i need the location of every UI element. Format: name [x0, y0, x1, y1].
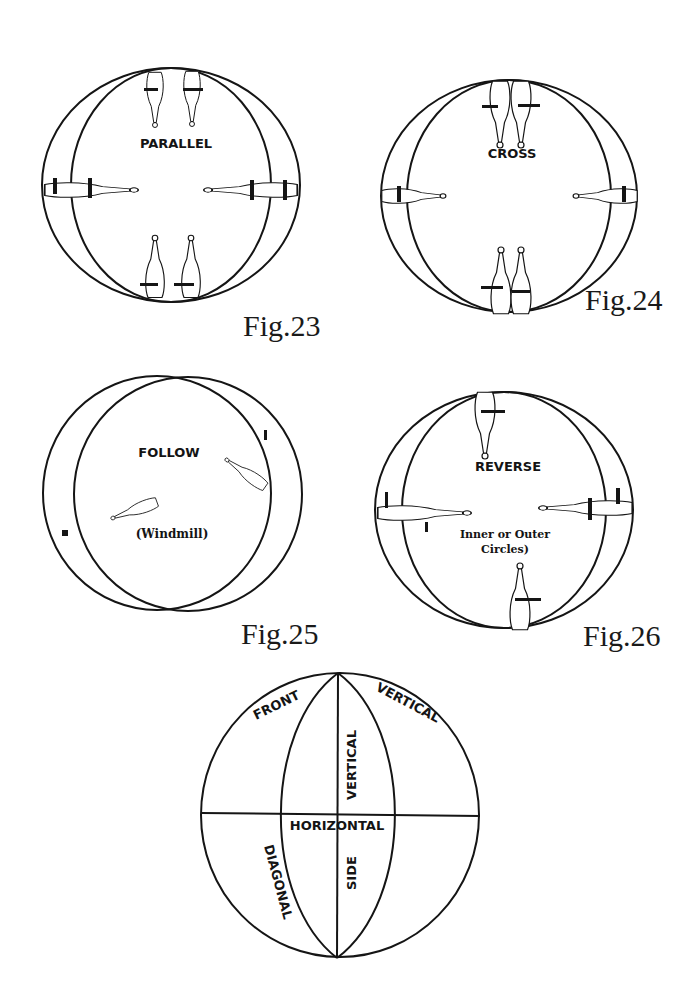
horizontal-line [201, 813, 480, 816]
club-icon [222, 454, 269, 492]
club-swinging-diagrams: PARALLEL Fig.23 CROSS Fig.24 FOLLOW (Win… [0, 0, 690, 1003]
front-label: FRONT [251, 687, 302, 722]
figure-sublabel: (Windmill) [136, 527, 209, 541]
club-icon [146, 235, 165, 297]
figure-26-reverse: REVERSE Inner or Outer Circles) Fig.26 [375, 392, 661, 652]
club-icon [511, 247, 531, 314]
vertical-line [337, 673, 338, 958]
right-circle [74, 377, 302, 611]
club-icon [184, 71, 200, 126]
figure-sublabel-line2: Circles) [481, 543, 529, 556]
figure-25-follow: FOLLOW (Windmill) Fig.25 [43, 376, 319, 650]
vertical-inner-label: VERTICAL [344, 730, 359, 800]
club-icon [109, 496, 159, 524]
club-icon [382, 189, 446, 204]
figure-caption: Fig.23 [243, 309, 321, 342]
figure-caption: Fig.25 [241, 617, 319, 650]
club-icon [147, 72, 163, 127]
figure-sublabel-line1: Inner or Outer [460, 528, 550, 541]
figure-label: REVERSE [475, 459, 541, 474]
club-icon [378, 506, 471, 521]
club-icon [511, 81, 531, 148]
figure-label: PARALLEL [140, 136, 212, 151]
figure-caption: Fig.26 [583, 619, 661, 652]
club-icon [573, 189, 637, 204]
planes-diagram: FRONT VERTICAL VERTICAL HORIZONTAL DIAGO… [201, 673, 480, 958]
left-circle [43, 376, 271, 610]
figure-label: FOLLOW [138, 445, 199, 460]
figure-label: CROSS [488, 146, 537, 161]
figure-23-parallel: PARALLEL Fig.23 [42, 68, 321, 342]
club-icon [182, 235, 201, 297]
club-icon [491, 247, 511, 314]
club-icon [490, 81, 510, 148]
side-label: SIDE [344, 856, 359, 890]
club-icon [475, 392, 495, 459]
vertical-outer-label: VERTICAL [374, 679, 443, 725]
club-icon [510, 563, 530, 630]
horizontal-label: HORIZONTAL [290, 818, 384, 833]
figure-caption: Fig.24 [585, 283, 663, 316]
figure-24-cross: CROSS Fig.24 [381, 80, 663, 316]
inner-circle [71, 68, 271, 302]
